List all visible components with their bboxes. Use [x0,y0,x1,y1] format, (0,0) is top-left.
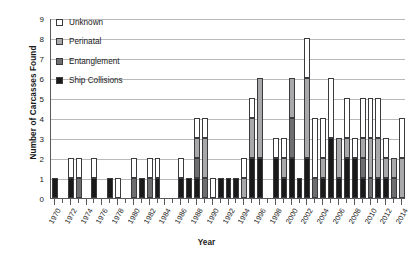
bar-group[interactable] [273,138,279,198]
bar-segment [186,178,192,198]
bar-segment [202,178,208,198]
bar-group[interactable] [399,118,405,198]
x-tick [385,199,386,205]
bar-segment [383,158,389,178]
y-tick-label: 9 [22,15,44,24]
bar-group[interactable] [76,158,82,198]
x-tick [141,199,142,203]
x-tick [125,199,126,203]
bar-group[interactable] [91,158,97,198]
bar-segment [383,138,389,158]
bar-group[interactable] [218,178,224,198]
bar-group[interactable] [383,138,389,198]
bar-group[interactable] [139,178,145,198]
bar-segment [375,98,381,138]
bar-segment [107,178,113,198]
bar-segment [131,178,137,198]
bar-group[interactable] [328,78,334,198]
bar-segment [360,98,366,138]
bar-group[interactable] [147,158,153,198]
bar-segment [91,158,97,178]
bar-group[interactable] [352,138,358,198]
bar-segment [68,158,74,178]
bar-segment [344,138,350,158]
bar-group[interactable] [304,38,310,198]
bar-group[interactable] [178,158,184,198]
bar-segment [368,98,374,138]
y-tick-label: 7 [22,55,44,64]
x-tick [228,199,229,205]
x-tick [220,199,221,203]
bar-group[interactable] [241,158,247,198]
x-tick [346,199,347,203]
bar-group[interactable] [194,118,200,198]
bar-group[interactable] [344,98,350,198]
bar-group[interactable] [131,158,137,198]
x-tick [109,199,110,203]
legend-swatch-icon [56,19,63,26]
bar-segment [320,178,326,198]
bar-group[interactable] [202,118,208,198]
bar-segment [304,78,310,158]
y-axis-tick-labels: 0123456789 [22,13,44,201]
bar-segment [344,98,350,138]
x-tick [62,199,63,203]
y-tick-label: 1 [22,175,44,184]
bar-group[interactable] [297,178,303,198]
bar-group[interactable] [257,78,263,198]
bar-segment [312,178,318,198]
bar-segment [226,178,232,198]
bar-group[interactable] [375,98,381,198]
bar-segment [312,118,318,178]
bar-segment [218,178,224,198]
x-tick [86,199,87,205]
bar-group[interactable] [281,138,287,198]
bar-group[interactable] [360,98,366,198]
y-tick-label: 5 [22,95,44,104]
bar-segment [320,118,326,158]
x-tick [164,199,165,205]
bar-group[interactable] [336,138,342,198]
bar-group[interactable] [320,118,326,198]
x-tick [299,199,300,203]
bar-group[interactable] [226,178,232,198]
bar-group[interactable] [391,158,397,198]
bar-segment [368,178,374,198]
bar-group[interactable] [210,178,216,198]
bar-group[interactable] [368,98,374,198]
bar-segment [383,178,389,198]
x-tick [101,199,102,205]
x-tick [370,199,371,205]
bar-group[interactable] [312,118,318,198]
bar-group[interactable] [52,178,58,198]
bar-group[interactable] [249,98,255,198]
bar-segment [257,158,263,198]
x-tick [78,199,79,203]
bar-group[interactable] [233,178,239,198]
x-tick [377,199,378,203]
y-tick-label: 3 [22,135,44,144]
bar-group[interactable] [115,178,121,198]
bar-segment [328,78,334,138]
bar-group[interactable] [155,158,161,198]
y-tick-label: 6 [22,75,44,84]
x-tick [267,199,268,203]
bar-segment [352,138,358,158]
bar-segment [304,38,310,78]
bar-group[interactable] [186,178,192,198]
y-tick-label: 2 [22,155,44,164]
bar-segment [155,158,161,178]
x-tick [291,199,292,205]
bar-segment [194,158,200,178]
bar-segment [375,138,381,178]
x-tick [54,199,55,205]
bar-segment [52,178,58,198]
x-tick [362,199,363,203]
x-tick [283,199,284,203]
x-tick [70,199,71,205]
bar-group[interactable] [68,158,74,198]
bar-segment [147,158,153,178]
bar-group[interactable] [289,78,295,198]
legend-label: Unknown [69,18,103,27]
bar-group[interactable] [107,178,113,198]
